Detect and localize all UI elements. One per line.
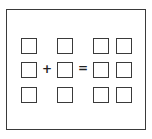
equals-sign: =	[78, 62, 88, 74]
box-r3-c1	[21, 87, 37, 103]
box-r1-c3	[93, 38, 109, 54]
box-r1-c1	[21, 38, 37, 54]
box-r2-c2	[57, 62, 73, 78]
box-r1-c4	[116, 38, 132, 54]
box-r2-c3	[93, 62, 109, 78]
box-r3-c2	[57, 87, 73, 103]
box-r1-c2	[57, 38, 73, 54]
box-r3-c4	[116, 87, 132, 103]
box-r2-c1	[21, 62, 37, 78]
plus-sign: +	[42, 63, 52, 75]
box-r2-c4	[116, 62, 132, 78]
box-r3-c3	[93, 87, 109, 103]
